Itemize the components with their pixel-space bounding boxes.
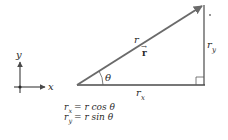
svg-text:= r sin θ: = r sin θ bbox=[74, 112, 114, 122]
equations: r x = r cos θ r y = r sin θ bbox=[64, 102, 116, 125]
right-triangle: r r → θ r x r y bbox=[77, 5, 217, 102]
corner-dot bbox=[209, 14, 211, 16]
svg-text:x: x bbox=[141, 94, 145, 102]
coordinate-axes: x y bbox=[14, 49, 54, 93]
svg-text:→: → bbox=[141, 43, 147, 51]
y-axis-label: y bbox=[15, 49, 22, 60]
svg-text:y: y bbox=[211, 46, 217, 54]
angle-arc bbox=[99, 71, 103, 85]
hypotenuse-label: r bbox=[134, 34, 140, 45]
vector-r-arrow bbox=[77, 6, 202, 85]
svg-text:y: y bbox=[68, 117, 73, 125]
adjacent-label: r x bbox=[136, 87, 145, 102]
right-angle-marker bbox=[196, 77, 204, 85]
vector-components-diagram: x y r r → θ r x r y r x = r cos θ bbox=[0, 0, 228, 140]
svg-text:= r cos θ: = r cos θ bbox=[74, 102, 116, 112]
opposite-label: r y bbox=[207, 39, 217, 54]
axes-origin-dot bbox=[18, 85, 21, 88]
vector-label: r → bbox=[141, 43, 147, 58]
x-axis-label: x bbox=[48, 81, 54, 92]
svg-text:x: x bbox=[69, 107, 73, 115]
angle-label: θ bbox=[105, 72, 111, 83]
